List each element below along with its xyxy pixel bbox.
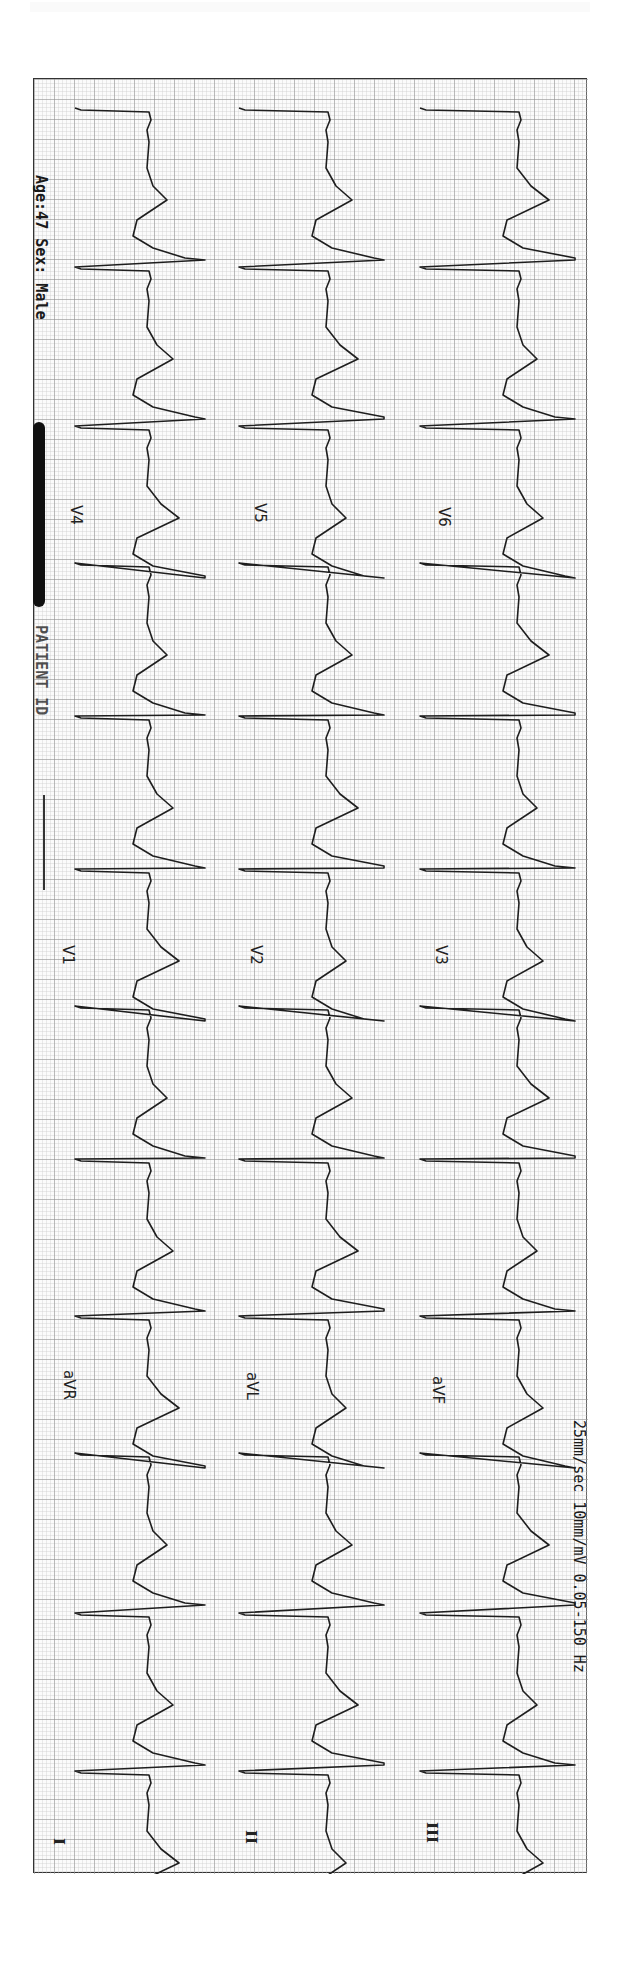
lead-label-aVR: aVR xyxy=(60,1370,78,1400)
patient-age-sex: Age:47 Sex: Male xyxy=(32,175,50,320)
lead-label-V3: V3 xyxy=(432,945,450,965)
lead-label-aVL: aVL xyxy=(243,1372,261,1400)
lead-label-V1: V1 xyxy=(59,945,77,965)
patient-id-partial: PATIENT ID xyxy=(32,625,50,715)
lead-label-V2: V2 xyxy=(247,945,265,965)
separator-line xyxy=(43,795,45,890)
lead-label-III: III xyxy=(423,1822,441,1843)
lead-label-V4: V4 xyxy=(67,505,85,525)
lead-label-V6: V6 xyxy=(435,507,453,527)
recording-settings: 25mm/sec 10mm/mV 0.05-150 Hz xyxy=(570,1420,588,1673)
redaction-bar xyxy=(33,422,45,607)
ecg-grid-and-traces xyxy=(34,79,588,1874)
grid xyxy=(34,79,588,1874)
lead-label-I: I xyxy=(50,1838,68,1845)
lead-label-II: II xyxy=(242,1830,260,1844)
lead-label-aVF: aVF xyxy=(429,1376,447,1404)
lead-label-V5: V5 xyxy=(251,503,269,523)
ecg-paper xyxy=(33,78,587,1873)
faint-bleedthrough xyxy=(30,2,590,12)
